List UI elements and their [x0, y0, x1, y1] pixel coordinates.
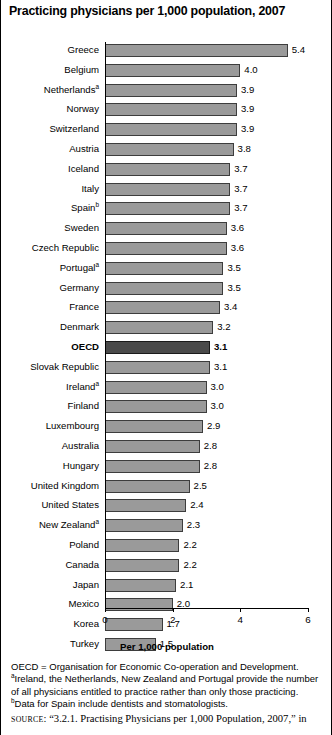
bar-row: Slovak Republic3.1 — [1, 359, 332, 379]
category-label: Netherlandsa — [0, 83, 99, 96]
bar — [105, 341, 210, 354]
bar-row: Poland2.2 — [1, 537, 332, 557]
bar — [105, 381, 207, 394]
footnote-a-line2: of all physicians entitled to practice r… — [11, 686, 323, 698]
bar — [105, 499, 186, 512]
footnote-a-line1: aIreland, the Netherlands, New Zealand a… — [11, 673, 323, 685]
bar-row: Switzerland3.9 — [1, 121, 332, 141]
bar-value-label: 3.6 — [231, 241, 244, 254]
bar — [105, 420, 203, 433]
bar-value-label: 2.2 — [183, 558, 196, 571]
footnotes: OECD = Organisation for Economic Co-oper… — [11, 661, 323, 711]
source-text: : “3.2.1. Practising Physicians per 1,00… — [44, 713, 307, 724]
source-citation: SOURCE: “3.2.1. Practising Physicians pe… — [11, 712, 325, 727]
footnote-marker: a — [95, 379, 99, 386]
bar-row: Norway3.9 — [1, 101, 332, 121]
bar — [105, 480, 190, 493]
x-axis-line — [105, 608, 309, 609]
bar — [105, 163, 230, 176]
category-label: Australia — [0, 439, 99, 452]
bar — [105, 579, 176, 592]
bar-value-label: 3.1 — [214, 360, 227, 373]
source-label: SOURCE — [11, 715, 44, 724]
bar-row: Spainb3.7 — [1, 200, 332, 220]
bar-value-label: 4.0 — [244, 63, 257, 76]
footnote-marker: b — [95, 201, 99, 208]
bar-value-label: 2.8 — [204, 439, 217, 452]
bar-row: France3.4 — [1, 299, 332, 319]
bar-row: Hungary2.8 — [1, 458, 332, 478]
category-label: Poland — [0, 538, 99, 551]
bar-row: Germany3.5 — [1, 280, 332, 300]
footnote-oecd-definition: OECD = Organisation for Economic Co-oper… — [11, 661, 323, 673]
bar-value-label: 3.7 — [234, 201, 247, 214]
bar-row: Italy3.7 — [1, 181, 332, 201]
category-label: OECD — [0, 340, 99, 353]
bar-value-label: 2.2 — [183, 538, 196, 551]
category-label: France — [0, 300, 99, 313]
bar — [105, 242, 227, 255]
bar — [105, 64, 240, 77]
category-label: United States — [0, 498, 99, 511]
bar-value-label: 3.7 — [234, 182, 247, 195]
bar-row: Finland3.0 — [1, 398, 332, 418]
footnote-marker: a — [95, 518, 99, 525]
bar-value-label: 3.9 — [241, 122, 254, 135]
bar-value-label: 2.1 — [180, 578, 193, 591]
bar-row: Belgium4.0 — [1, 62, 332, 82]
bar-row: OECD3.1 — [1, 339, 332, 359]
bar — [105, 44, 288, 57]
category-label: Luxembourg — [0, 419, 99, 432]
bar — [105, 202, 230, 215]
footnote-b: bData for Spain include dentists and sto… — [11, 698, 323, 710]
bar-row: United Kingdom2.5 — [1, 478, 332, 498]
bar-value-label: 3.0 — [211, 399, 224, 412]
bar-row: Portugala3.5 — [1, 260, 332, 280]
category-label: Finland — [0, 399, 99, 412]
category-label: Norway — [0, 102, 99, 115]
bar-row: United States2.4 — [1, 497, 332, 517]
bar-value-label: 3.5 — [227, 261, 240, 274]
bar — [105, 361, 210, 374]
bar — [105, 123, 237, 136]
bar-value-label: 2.4 — [190, 498, 203, 511]
bar-row: Czech Republic3.6 — [1, 240, 332, 260]
category-label: Sweden — [0, 221, 99, 234]
bar-value-label: 3.8 — [238, 142, 251, 155]
bar-value-label: 2.5 — [194, 479, 207, 492]
bar — [105, 282, 223, 295]
bar-value-label: 2.8 — [204, 459, 217, 472]
bar-row: Sweden3.6 — [1, 220, 332, 240]
footnote-marker: a — [95, 82, 99, 89]
category-label: Iceland — [0, 162, 99, 175]
category-label: Greece — [0, 43, 99, 56]
bar-row: New Zealanda2.3 — [1, 517, 332, 537]
bar-row: Greece5.4 — [1, 42, 332, 62]
x-axis-tick — [105, 608, 106, 612]
bar-value-label: 2.9 — [207, 419, 220, 432]
x-axis-title: Per 1,000 population — [1, 641, 332, 652]
bar-value-label: 3.9 — [241, 83, 254, 96]
bar — [105, 539, 179, 552]
category-label: Denmark — [0, 320, 99, 333]
bar-value-label: 3.2 — [217, 320, 230, 333]
bar-row: Irelanda3.0 — [1, 379, 332, 399]
x-axis-tick — [173, 608, 174, 612]
bar — [105, 103, 237, 116]
bar-value-label: 3.7 — [234, 162, 247, 175]
bar-value-label: 3.0 — [211, 380, 224, 393]
category-label: Switzerland — [0, 122, 99, 135]
bar-value-label: 2.3 — [187, 518, 200, 531]
bar — [105, 440, 200, 453]
category-label: Irelanda — [0, 380, 99, 393]
bar — [105, 559, 179, 572]
category-label: Hungary — [0, 459, 99, 472]
bar-row: Netherlandsa3.9 — [1, 82, 332, 102]
bar-value-label: 3.5 — [227, 281, 240, 294]
x-axis-tick-label: 4 — [225, 614, 255, 625]
bar — [105, 183, 230, 196]
bar — [105, 262, 223, 275]
x-axis-tick — [240, 608, 241, 612]
bar-row: Australia2.8 — [1, 438, 332, 458]
category-label: Japan — [0, 578, 99, 591]
